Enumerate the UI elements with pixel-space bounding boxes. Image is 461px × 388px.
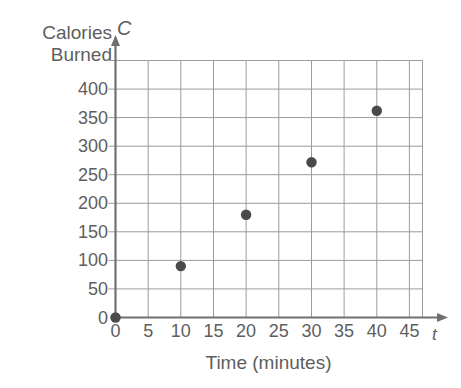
scatter-plot-figure: Calories Burned C t Time (minutes) 05010… xyxy=(0,0,461,388)
data-point xyxy=(176,261,186,271)
gridlines xyxy=(109,61,423,318)
axis-lines xyxy=(111,35,448,322)
plot-canvas xyxy=(0,0,461,388)
data-point xyxy=(372,106,382,116)
x-axis-arrowhead xyxy=(437,313,448,322)
data-point xyxy=(241,210,251,220)
y-axis-arrowhead xyxy=(111,35,120,46)
data-point xyxy=(306,157,316,167)
data-point xyxy=(110,312,120,322)
